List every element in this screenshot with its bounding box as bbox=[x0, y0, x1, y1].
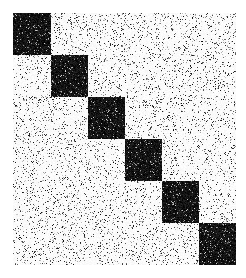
block-diagonal-matrix-heatmap bbox=[13, 13, 236, 265]
heatmap-plot-area bbox=[13, 13, 236, 265]
figure-root bbox=[0, 0, 246, 278]
